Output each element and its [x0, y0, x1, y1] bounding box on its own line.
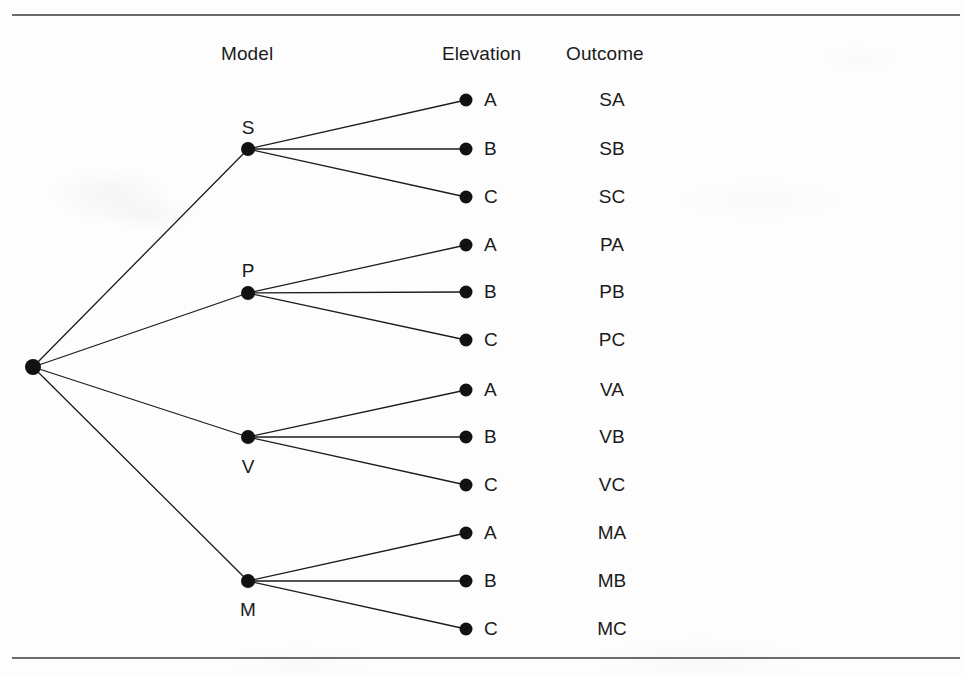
leaf-node-va: [460, 384, 473, 397]
column-header-outcome: Outcome: [566, 44, 644, 63]
leaf-node-ma: [460, 527, 473, 540]
leaf-node-vc: [460, 479, 473, 492]
edge-s-to-a: [248, 100, 466, 149]
outcome-label-sb: SB: [577, 139, 647, 158]
outcome-label-sc: SC: [577, 187, 647, 206]
column-header-model: Model: [221, 44, 273, 63]
model-node-p: [241, 286, 255, 300]
edge-v-to-c: [248, 437, 466, 485]
model-label-v: V: [233, 457, 263, 476]
model-node-m: [241, 574, 255, 588]
edge-p-to-c: [248, 293, 466, 340]
outcome-label-pb: PB: [577, 282, 647, 301]
outcome-label-mc: MC: [577, 619, 647, 638]
outcome-label-va: VA: [577, 380, 647, 399]
elevation-label-pa: A: [484, 235, 497, 254]
leaf-node-mb: [460, 575, 473, 588]
edge-m-to-a: [248, 533, 466, 581]
edge-root-to-p: [33, 293, 248, 367]
edge-s-to-c: [248, 149, 466, 197]
leaf-node-pc: [460, 334, 473, 347]
elevation-label-pc: C: [484, 330, 498, 349]
model-label-p: P: [233, 261, 263, 280]
leaf-node-mc: [460, 623, 473, 636]
leaf-node-pa: [460, 239, 473, 252]
edge-root-to-s: [33, 149, 248, 367]
outcome-label-mb: MB: [577, 571, 647, 590]
tree-nodes: [25, 94, 473, 636]
outcome-label-pc: PC: [577, 330, 647, 349]
elevation-label-sb: B: [484, 139, 497, 158]
elevation-label-sa: A: [484, 90, 497, 109]
edge-m-to-c: [248, 581, 466, 629]
model-node-s: [241, 142, 255, 156]
edge-root-to-v: [33, 367, 248, 437]
edge-p-to-b: [248, 292, 466, 293]
model-label-m: M: [233, 600, 263, 619]
elevation-label-vc: C: [484, 475, 498, 494]
model-node-v: [241, 430, 255, 444]
tree-diagram-graphics: [0, 0, 966, 675]
root-node: [25, 359, 41, 375]
outcome-label-sa: SA: [577, 90, 647, 109]
outcome-label-vb: VB: [577, 427, 647, 446]
edge-root-to-m: [33, 367, 248, 581]
leaf-node-sa: [460, 94, 473, 107]
elevation-label-sc: C: [484, 187, 498, 206]
elevation-label-ma: A: [484, 523, 497, 542]
outcome-label-vc: VC: [577, 475, 647, 494]
edge-p-to-a: [248, 245, 466, 293]
leaf-node-sb: [460, 143, 473, 156]
elevation-label-pb: B: [484, 282, 497, 301]
elevation-label-vb: B: [484, 427, 497, 446]
outcome-label-pa: PA: [577, 235, 647, 254]
elevation-label-mb: B: [484, 571, 497, 590]
model-label-s: S: [233, 118, 263, 137]
elevation-label-mc: C: [484, 619, 498, 638]
figure-canvas: Model Elevation Outcome ASABSBCSCSAPABPB…: [0, 0, 966, 675]
leaf-node-pb: [460, 286, 473, 299]
tree-edges: [33, 100, 466, 629]
elevation-label-va: A: [484, 380, 497, 399]
edge-v-to-a: [248, 390, 466, 437]
leaf-node-sc: [460, 191, 473, 204]
outcome-label-ma: MA: [577, 523, 647, 542]
column-header-elevation: Elevation: [442, 44, 521, 63]
leaf-node-vb: [460, 431, 473, 444]
